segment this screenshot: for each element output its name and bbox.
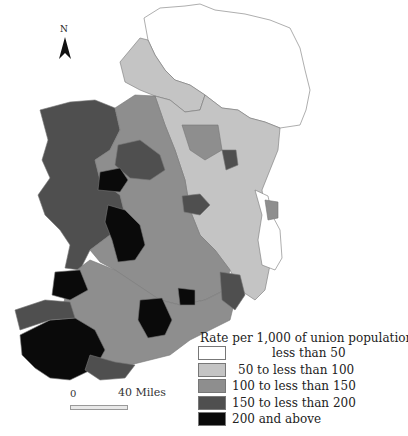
north-label: N [60,24,68,34]
legend-label: 100 to less than 150 [232,379,356,393]
scale-bar-line [70,405,128,410]
legend-swatch [198,379,226,393]
region-black-3 [178,288,195,305]
legend-title: Rate per 1,000 of union population [200,331,408,345]
legend-swatch [198,396,226,410]
legend-label: 150 to less than 200 [232,396,356,410]
legend-item: 150 to less than 200 [198,395,408,412]
legend-swatch [198,363,226,377]
legend: Rate per 1,000 of union population less … [198,331,408,428]
legend-label: less than 50 [272,346,346,360]
scale-start-label: 0 [70,388,76,399]
legend-label: 50 to less than 100 [238,363,354,377]
legend-swatch [198,412,226,426]
legend-label: 200 and above [232,412,321,426]
legend-item: less than 50 [198,345,408,362]
legend-item: 200 and above [198,411,408,428]
legend-item: 100 to less than 150 [198,378,408,395]
scale-end-label: 40 Miles [118,386,166,399]
legend-item: 50 to less than 100 [198,362,408,379]
legend-swatch [198,346,226,360]
